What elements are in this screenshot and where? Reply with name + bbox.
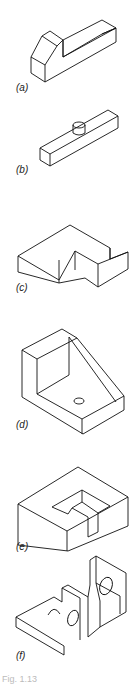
figure-c-drawing: [18, 225, 128, 287]
figure-c-label: (c): [16, 282, 28, 293]
figure-f-drawing: [16, 556, 126, 655]
figure-a-drawing: [31, 20, 116, 82]
figure-caption: Fig. 1.13: [2, 674, 37, 684]
figure-b-drawing: [40, 110, 118, 166]
figure-d-label: (d): [16, 419, 28, 430]
figure-a-label: (a): [16, 82, 28, 93]
figure-d-drawing: [22, 329, 124, 434]
figure-f-label: (f): [16, 650, 25, 661]
figure-b-label: (b): [16, 164, 28, 175]
figure-e-label: (e): [16, 541, 28, 552]
figure-e-drawing: [18, 467, 128, 551]
